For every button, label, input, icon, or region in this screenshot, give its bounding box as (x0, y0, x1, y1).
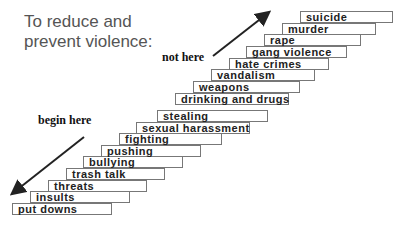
stair-step-label: murder (288, 22, 329, 36)
stair-step-label: drinking and drugs (181, 92, 290, 106)
stair-step: murder (282, 23, 376, 35)
stair-step: put downs (12, 203, 112, 215)
stair-step-label: sexual harassment (142, 121, 250, 135)
stair-step: sexual harassment (136, 122, 250, 134)
stair-step-label: weapons (199, 80, 250, 94)
stair-step: threats (48, 180, 147, 192)
stair-step-label: put downs (18, 202, 78, 216)
stair-step: drinking and drugs (175, 93, 289, 105)
stair-step: gang violence (246, 46, 347, 58)
stair-step-label: hate crimes (235, 57, 302, 71)
stair-step-label: stealing (163, 109, 209, 123)
stair-step-label: pushing (107, 144, 153, 158)
stair-step: pushing (101, 145, 201, 157)
stair-step-label: gang violence (252, 45, 332, 59)
stair-step-label: suicide (306, 10, 347, 24)
stair-step: trash talk (66, 168, 165, 180)
stair-step-label: threats (54, 179, 94, 193)
stair-step: suicide (300, 11, 393, 23)
stair-step: stealing (157, 110, 268, 122)
stair-step-label: trash talk (72, 167, 126, 181)
stair-step: hate crimes (229, 58, 329, 70)
stair-step: weapons (193, 81, 300, 93)
